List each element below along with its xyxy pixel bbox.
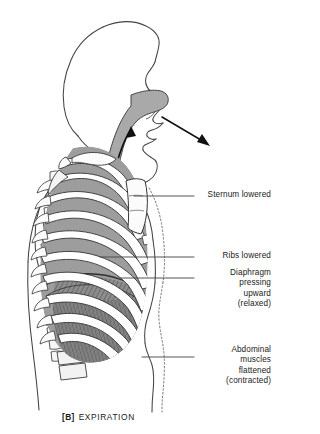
label-line: Sternum lowered <box>208 190 271 200</box>
label-line: (contracted) <box>226 376 271 386</box>
label-line: (relaxed) <box>230 299 271 309</box>
caption-panel-tag: [B] <box>62 412 75 422</box>
label-line: muscles <box>226 355 271 365</box>
label-sternum-lowered: Sternum lowered <box>208 190 271 200</box>
label-line: pressing <box>230 278 271 288</box>
label-ribs-lowered: Ribs lowered <box>222 251 271 261</box>
caption-text: EXPIRATION <box>79 412 135 422</box>
label-line: Diaphragm <box>230 268 271 278</box>
label-line: Ribs lowered <box>222 251 271 261</box>
label-diaphragm-pressing-upward: Diaphragm pressing upward (relaxed) <box>230 268 271 310</box>
label-line: upward <box>230 289 271 299</box>
figure-caption: [B]EXPIRATION <box>62 412 135 422</box>
label-line: flattened <box>226 366 271 376</box>
label-abdominal-muscles-flattened: Abdominal muscles flattened (contracted) <box>226 345 271 387</box>
sternum <box>126 179 147 234</box>
label-line: Abdominal <box>226 345 271 355</box>
